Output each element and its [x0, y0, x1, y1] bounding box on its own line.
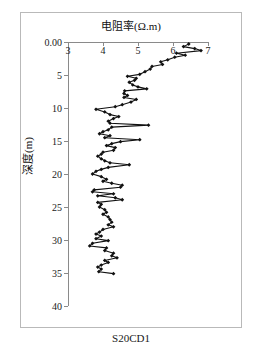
data-point-marker — [145, 87, 149, 91]
data-point-marker — [182, 45, 186, 49]
data-point-marker — [193, 47, 197, 51]
data-point-marker — [117, 115, 121, 119]
data-point-marker — [106, 239, 110, 243]
data-point-marker — [183, 53, 187, 57]
data-point-marker — [108, 134, 112, 138]
data-point-marker — [143, 70, 147, 74]
data-point-marker — [94, 107, 98, 111]
data-point-marker — [99, 175, 103, 179]
data-point-marker — [120, 198, 124, 202]
data-point-marker — [106, 166, 110, 170]
data-point-marker — [108, 113, 112, 117]
data-point-marker — [94, 237, 98, 241]
resistivity-line — [90, 44, 201, 274]
data-point-marker — [105, 144, 109, 148]
data-point-marker — [126, 74, 130, 78]
data-point-marker — [115, 256, 119, 260]
data-point-marker — [123, 89, 127, 93]
data-point-marker — [175, 51, 179, 55]
data-point-marker — [110, 142, 114, 146]
data-point-marker — [138, 138, 142, 142]
data-point-marker — [119, 140, 123, 144]
figure-caption: S20CD1 — [20, 332, 242, 344]
figure-container: 电阻率(Ω.m) 34567 0.00510152025303540 深度(m)… — [0, 0, 262, 352]
data-point-marker — [113, 196, 117, 200]
data-point-marker — [138, 72, 142, 76]
data-point-marker — [112, 272, 116, 276]
data-point-marker — [110, 181, 114, 185]
data-point-marker — [199, 49, 203, 53]
data-point-marker — [112, 117, 116, 121]
data-point-marker — [112, 192, 116, 196]
data-series-plot — [0, 0, 262, 352]
data-point-marker — [113, 105, 117, 109]
data-point-marker — [103, 136, 107, 140]
data-point-marker — [103, 110, 107, 114]
data-point-marker — [99, 234, 103, 238]
data-point-marker — [108, 161, 112, 165]
data-point-marker — [120, 103, 124, 107]
data-point-marker — [134, 98, 138, 102]
data-point-marker — [129, 100, 133, 104]
data-point-marker — [166, 58, 170, 62]
data-point-marker — [96, 194, 100, 198]
data-point-marker — [127, 163, 131, 167]
data-point-marker — [99, 167, 103, 171]
data-point-marker — [147, 123, 151, 127]
data-point-marker — [136, 85, 140, 89]
data-point-marker — [173, 55, 177, 59]
data-point-marker — [187, 42, 191, 46]
data-point-marker — [112, 225, 116, 229]
